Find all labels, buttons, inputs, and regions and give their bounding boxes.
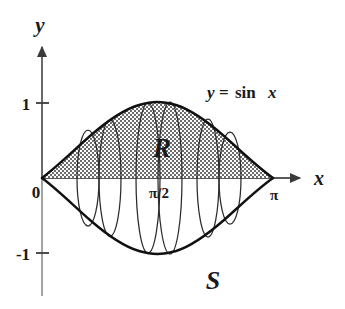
x-tick-label-pi: π [270,187,279,203]
solid-label-S: S [206,266,220,295]
curve-equation-equals: = [219,83,229,102]
y-tick-label-minus1: -1 [16,245,30,264]
figure-container: y x 0 1 -1 π/2 π y = sin x R S [0,0,345,309]
curve-equation-function: sin [235,83,256,102]
curve-equation-variable: x [267,83,277,102]
math-figure: y x 0 1 -1 π/2 π y = sin x R S [0,0,345,309]
curve-equation-y: y [205,83,215,102]
origin-label: 0 [32,183,41,202]
y-tick-label-1: 1 [22,95,31,114]
y-axis-label: y [32,13,45,37]
region-label-R: R [152,133,171,163]
curve-equation-label: y = sin x [205,83,277,102]
x-tick-label-pi-over-2: π/2 [149,185,169,201]
x-axis-label: x [313,167,324,189]
